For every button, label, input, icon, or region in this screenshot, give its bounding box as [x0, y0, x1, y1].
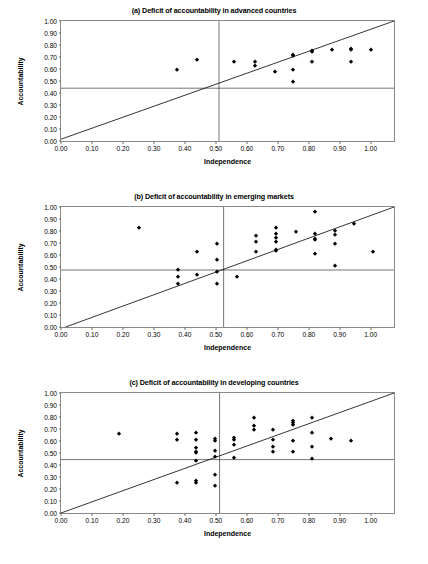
y-axis-tick-mark: [59, 453, 62, 454]
panel-c-plot-area: 0.000.100.200.300.400.500.600.700.800.90…: [60, 392, 395, 514]
x-axis-tick-mark: [61, 141, 62, 144]
y-axis-tick-label: 0.70: [44, 54, 57, 61]
y-axis-tick-label: 0.10: [44, 498, 57, 505]
x-axis-tick-mark: [339, 141, 340, 144]
y-axis-tick-mark: [59, 105, 62, 106]
x-axis-tick-label: 0.20: [117, 145, 130, 152]
x-axis-tick-mark: [91, 141, 92, 144]
x-axis-tick-label: 0.40: [178, 517, 191, 524]
x-axis-tick-label: 0.30: [148, 331, 161, 338]
y-axis-tick-label: 1.00: [44, 390, 57, 397]
x-axis-tick-mark: [215, 327, 216, 330]
x-axis-tick-mark: [339, 513, 340, 516]
y-axis-tick-mark: [59, 207, 62, 208]
x-axis-tick-label: 1.00: [364, 517, 377, 524]
x-axis-tick-mark: [122, 327, 123, 330]
x-axis-tick-mark: [153, 141, 154, 144]
x-axis-tick-label: 0.50: [209, 517, 222, 524]
y-axis-tick-label: 0.30: [44, 288, 57, 295]
x-axis-tick-mark: [215, 513, 216, 516]
y-axis-tick-mark: [59, 291, 62, 292]
y-axis-tick-mark: [59, 405, 62, 406]
panel-b-title: (b) Deficit of accountability in emergin…: [0, 192, 428, 204]
panel-a-identity-line: [61, 21, 394, 139]
panel-b-reference-lines: [61, 207, 394, 327]
y-axis-tick-mark: [59, 315, 62, 316]
x-axis-tick-mark: [246, 141, 247, 144]
x-axis-tick-label: 0.70: [271, 145, 284, 152]
x-axis-tick-label: 0.30: [148, 517, 161, 524]
y-axis-tick-label: 0.00: [44, 510, 57, 517]
y-axis-tick-mark: [59, 243, 62, 244]
y-axis-tick-label: 0.60: [44, 252, 57, 259]
y-axis-tick-mark: [59, 129, 62, 130]
y-axis-tick-mark: [59, 21, 62, 22]
x-axis-tick-mark: [246, 513, 247, 516]
x-axis-tick-label: 0.10: [86, 145, 99, 152]
x-axis-tick-mark: [184, 141, 185, 144]
x-axis-tick-label: 0.90: [333, 331, 346, 338]
figure-deficit-of-accountability: (a) Deficit of accountability in advance…: [0, 0, 428, 564]
y-axis-tick-mark: [59, 267, 62, 268]
y-axis-tick-label: 0.70: [44, 426, 57, 433]
x-axis-tick-mark: [370, 141, 371, 144]
x-axis-tick-label: 0.20: [117, 331, 130, 338]
y-axis-tick-label: 0.80: [44, 228, 57, 235]
y-axis-tick-mark: [59, 81, 62, 82]
y-axis-tick-mark: [59, 303, 62, 304]
y-axis-tick-mark: [59, 465, 62, 466]
x-axis-tick-label: 0.10: [86, 517, 99, 524]
x-axis-tick-label: 0.80: [302, 517, 315, 524]
x-axis-tick-label: 0.90: [333, 517, 346, 524]
x-axis-tick-label: 0.00: [55, 331, 68, 338]
y-axis-tick-mark: [59, 45, 62, 46]
x-axis-tick-label: 0.10: [86, 331, 99, 338]
x-axis-tick-label: 0.00: [55, 145, 68, 152]
y-axis-tick-mark: [59, 501, 62, 502]
y-axis-tick-mark: [59, 57, 62, 58]
y-axis-tick-mark: [59, 489, 62, 490]
panel-b-y-axis-label: Accountability: [14, 206, 26, 328]
x-axis-tick-label: 0.20: [117, 517, 130, 524]
y-axis-tick-label: 0.80: [44, 42, 57, 49]
x-axis-tick-label: 0.70: [271, 331, 284, 338]
panel-a-x-axis-label: Independence: [60, 158, 395, 165]
panel-c-identity-line: [61, 393, 394, 513]
y-axis-tick-mark: [59, 69, 62, 70]
x-axis-tick-label: 0.50: [209, 145, 222, 152]
y-axis-tick-label: 0.20: [44, 300, 57, 307]
x-axis-tick-label: 0.40: [178, 331, 191, 338]
x-axis-tick-mark: [122, 141, 123, 144]
panel-a-title: (a) Deficit of accountability in advance…: [0, 6, 428, 18]
chart-panel-b: (b) Deficit of accountability in emergin…: [0, 192, 428, 380]
x-axis-tick-mark: [370, 513, 371, 516]
panel-c-title: (c) Deficit of accountability in develop…: [0, 378, 428, 390]
x-axis-tick-mark: [184, 513, 185, 516]
chart-panel-c: (c) Deficit of accountability in develop…: [0, 378, 428, 564]
panel-a-reference-lines: [61, 21, 394, 141]
panel-b-x-axis-label: Independence: [60, 344, 395, 351]
x-axis-tick-mark: [308, 327, 309, 330]
y-axis-tick-mark: [59, 231, 62, 232]
x-axis-tick-mark: [122, 513, 123, 516]
x-axis-tick-mark: [370, 327, 371, 330]
x-axis-tick-mark: [215, 141, 216, 144]
y-axis-tick-mark: [59, 279, 62, 280]
y-axis-tick-label: 1.00: [44, 204, 57, 211]
y-axis-tick-label: 0.40: [44, 90, 57, 97]
y-axis-tick-label: 0.50: [44, 264, 57, 271]
y-axis-tick-label: 0.10: [44, 126, 57, 133]
panel-a-plot-area: 0.000.100.200.300.400.500.600.700.800.90…: [60, 20, 395, 142]
panel-a-y-axis-label: Accountability: [14, 20, 26, 142]
panel-a-inner: 0.000.100.200.300.400.500.600.700.800.90…: [61, 21, 394, 141]
y-axis-tick-label: 0.20: [44, 114, 57, 121]
x-axis-tick-mark: [277, 141, 278, 144]
x-axis-tick-label: 0.60: [240, 145, 253, 152]
x-axis-tick-label: 1.00: [364, 331, 377, 338]
y-axis-tick-mark: [59, 117, 62, 118]
x-axis-tick-mark: [61, 513, 62, 516]
x-axis-tick-mark: [91, 513, 92, 516]
y-axis-tick-mark: [59, 417, 62, 418]
x-axis-tick-label: 0.40: [178, 145, 191, 152]
x-axis-tick-label: 0.30: [148, 145, 161, 152]
